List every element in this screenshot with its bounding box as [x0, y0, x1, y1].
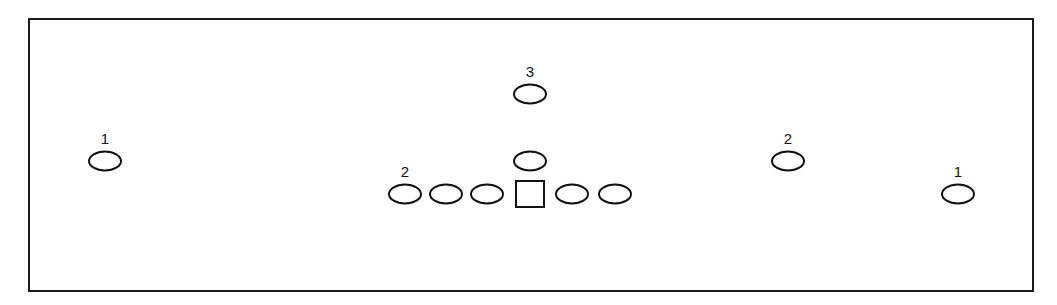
- player-number-label: 3: [526, 63, 534, 80]
- player-right-slot: 2: [772, 130, 804, 171]
- player-ellipse-icon: [89, 152, 121, 171]
- player-center: [516, 181, 544, 207]
- player-ellipse-icon: [772, 152, 804, 171]
- player-ellipse-icon: [942, 185, 974, 204]
- player-quarterback: [514, 152, 546, 171]
- player-ellipse-icon: [430, 185, 462, 204]
- player-line-left-3: 2: [389, 163, 421, 204]
- formation-diagram: 12321: [0, 0, 1057, 305]
- player-deep-back: 3: [514, 63, 546, 104]
- player-number-label: 2: [401, 163, 409, 180]
- player-line-right-2: [599, 185, 631, 204]
- player-number-label: 2: [784, 130, 792, 147]
- player-left-wide: 1: [89, 130, 121, 171]
- player-line-left-1: [471, 185, 503, 204]
- player-ellipse-icon: [514, 152, 546, 171]
- player-ellipse-icon: [599, 185, 631, 204]
- players-group: 12321: [89, 63, 974, 207]
- player-ellipse-icon: [514, 85, 546, 104]
- player-number-label: 1: [101, 130, 109, 147]
- player-right-wide: 1: [942, 163, 974, 204]
- player-ellipse-icon: [471, 185, 503, 204]
- player-number-label: 1: [954, 163, 962, 180]
- player-line-left-2: [430, 185, 462, 204]
- player-line-right-1: [556, 185, 588, 204]
- player-ellipse-icon: [389, 185, 421, 204]
- player-ellipse-icon: [556, 185, 588, 204]
- center-square-icon: [516, 181, 544, 207]
